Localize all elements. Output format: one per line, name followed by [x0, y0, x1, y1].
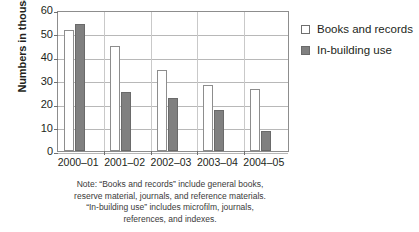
bar-chart-figure: Numbers in thousands 0102030405060 2000–… — [0, 0, 419, 232]
bar — [110, 46, 120, 151]
bar — [157, 70, 167, 151]
y-axis-tick-label: 60 — [27, 5, 53, 16]
legend-item: Books and records — [301, 23, 419, 35]
x-axis-tick — [151, 151, 152, 155]
x-axis-tick — [197, 151, 198, 155]
gridline — [58, 153, 288, 154]
chart-note: Note: “Books and records” include genera… — [45, 179, 295, 225]
y-axis-tick-label: 30 — [27, 76, 53, 87]
x-axis-tick-label: 2004–05 — [241, 156, 287, 169]
legend-swatch-books-icon — [301, 25, 310, 34]
y-axis-tick — [54, 106, 58, 107]
bar — [250, 89, 260, 151]
x-axis-tick — [104, 151, 105, 155]
chart-legend: Books and recordsIn-building use — [301, 23, 419, 65]
legend-label: Books and records — [317, 23, 413, 35]
bar — [64, 30, 74, 151]
y-axis-tick-labels: 0102030405060 — [27, 11, 53, 152]
bar — [203, 85, 213, 151]
note-line: reserve material, journals, and referenc… — [45, 191, 295, 203]
legend-label: In-building use — [317, 44, 392, 56]
x-axis-tick-label: 2002–03 — [148, 156, 194, 169]
y-axis-tick-label: 40 — [27, 52, 53, 63]
y-axis-tick — [54, 153, 58, 154]
x-axis-tick-label: 2000–01 — [55, 156, 101, 169]
y-axis-tick — [54, 12, 58, 13]
x-axis-tick — [244, 151, 245, 155]
category-separator — [151, 12, 152, 151]
bar — [261, 131, 271, 151]
gridline — [58, 59, 288, 60]
y-axis-tick-label: 0 — [27, 146, 53, 157]
note-line: “In-building use” includes microfilm, jo… — [45, 202, 295, 214]
y-axis-tick-label: 10 — [27, 123, 53, 134]
bar — [168, 98, 178, 151]
x-axis-tick-label: 2003–04 — [194, 156, 240, 169]
x-axis-tick-label: 2001–02 — [101, 156, 147, 169]
note-line: Note: “Books and records” include genera… — [45, 179, 295, 191]
gridline — [58, 82, 288, 83]
category-separator — [104, 12, 105, 151]
x-axis-tick-labels: 2000–012001–022002–032003–042004–05 — [57, 156, 289, 172]
legend-item: In-building use — [301, 44, 419, 56]
category-separator — [244, 12, 245, 151]
bar — [121, 92, 131, 151]
note-line: references, and indexes. — [45, 214, 295, 226]
gridline — [58, 35, 288, 36]
y-axis-tick-label: 20 — [27, 99, 53, 110]
category-separator — [197, 12, 198, 151]
y-axis-tick — [54, 59, 58, 60]
bar — [75, 24, 85, 151]
y-axis-tick — [54, 82, 58, 83]
y-axis-tick — [54, 129, 58, 130]
bar — [214, 110, 224, 151]
y-axis-tick-label: 50 — [27, 29, 53, 40]
y-axis-tick — [54, 35, 58, 36]
plot-area — [57, 11, 289, 152]
legend-swatch-inbuilding-icon — [301, 46, 310, 55]
